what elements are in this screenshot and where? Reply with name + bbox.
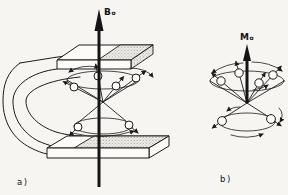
bottom-pole-piece [47, 136, 169, 158]
spin-nucleus [218, 117, 227, 126]
panel-b-caption: b) [220, 174, 232, 184]
m0-label-subscript: o [250, 34, 254, 41]
panel-a-caption: a) [17, 177, 29, 187]
b0-label-subscript: o [112, 9, 116, 16]
spin-nucleus [267, 115, 276, 124]
nmr-spin-precession-figure: B o a) [0, 0, 288, 195]
spin-nucleus [132, 74, 140, 82]
top-pole-front-face [57, 60, 131, 69]
spin-nucleus [235, 69, 243, 77]
spin-nucleus [70, 83, 78, 91]
figure-svg: B o a) [0, 0, 288, 195]
figure-background [0, 0, 288, 195]
b0-label: B [104, 7, 111, 17]
m0-label: M [240, 32, 249, 42]
spin-nucleus [255, 79, 263, 87]
